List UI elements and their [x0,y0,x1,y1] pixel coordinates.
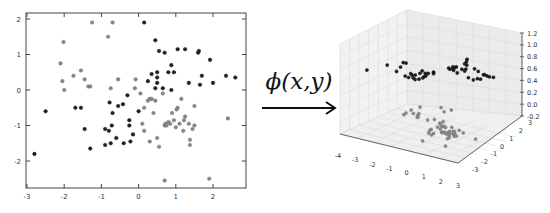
svg-text:-2: -2 [61,193,68,201]
svg-text:2: 2 [211,193,215,201]
svg-text:0.8: 0.8 [527,53,537,61]
svg-text:-1: -1 [386,165,392,173]
svg-text:0.4: 0.4 [527,77,537,85]
scatter-3d-canvas: 1.21.00.80.60.40.20.0-0.2-4-3-2-10123-3-… [330,0,550,213]
svg-text:-4: -4 [335,152,341,160]
svg-text:-2: -2 [481,158,487,166]
svg-text:-1: -1 [98,193,105,201]
svg-text:2: 2 [519,127,523,135]
svg-text:1.0: 1.0 [527,41,537,49]
svg-text:1.2: 1.2 [527,30,537,38]
svg-text:-3: -3 [352,156,358,164]
svg-text:1: 1 [422,173,426,181]
svg-text:0: 0 [17,87,21,95]
right-arrow-icon [258,68,340,118]
output-3d-scatter-plot: 1.21.00.80.60.40.20.0-0.2-4-3-2-10123-3-… [330,0,550,213]
svg-text:1: 1 [17,51,21,59]
plot-frame [26,13,246,188]
svg-text:0.0: 0.0 [527,101,537,109]
input-scatter-plot: -3-2-1012 210-1-2 [0,0,260,213]
svg-text:1: 1 [509,135,513,143]
svg-text:-2: -2 [14,158,21,166]
svg-text:-3: -3 [472,166,478,174]
svg-text:0: 0 [405,169,409,177]
svg-text:2: 2 [17,16,21,24]
svg-text:0.6: 0.6 [527,65,537,73]
svg-text:-1: -1 [14,122,21,130]
svg-text:-2: -2 [369,161,375,169]
svg-text:0.2: 0.2 [527,89,537,97]
svg-text:2: 2 [439,178,443,186]
svg-text:-3: -3 [24,193,31,201]
svg-text:0: 0 [136,193,140,201]
scatter-2d-canvas: -3-2-1012 210-1-2 [0,0,260,213]
svg-text:3: 3 [456,182,460,190]
svg-text:1: 1 [174,193,178,201]
svg-text:-1: -1 [491,150,497,158]
svg-text:3: 3 [528,119,532,127]
svg-text:0: 0 [500,143,504,151]
feature-map-transform: ϕ(x,y) [258,68,340,118]
